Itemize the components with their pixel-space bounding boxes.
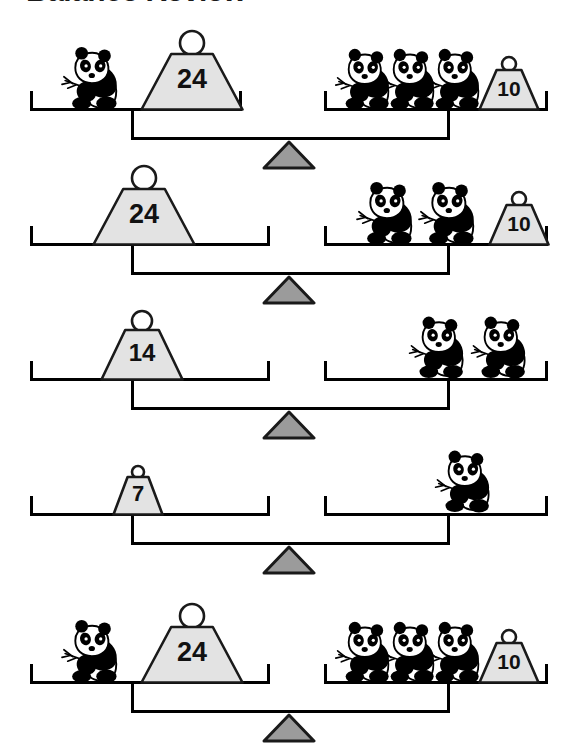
weight-value-label: 10 <box>478 651 540 672</box>
weight-block: 24 <box>140 602 244 684</box>
weight-block: 10 <box>488 190 550 246</box>
pan-edge-tick <box>545 664 548 684</box>
beam-arm-right <box>447 684 450 713</box>
pan-edge-tick <box>267 496 270 516</box>
weight-block: 7 <box>112 464 164 516</box>
pan-edge-tick <box>267 226 270 246</box>
weight-value-label: 7 <box>112 483 164 505</box>
beam-arm-left <box>131 111 134 140</box>
pan-edge-tick <box>324 91 327 111</box>
weight-value-label: 10 <box>478 78 540 99</box>
weight-value-label: 10 <box>488 213 550 234</box>
beam-arm-right <box>447 381 450 410</box>
pan-edge-tick <box>267 361 270 381</box>
pan-edge-tick <box>30 664 33 684</box>
beam-arm-left <box>131 516 134 545</box>
beam-arm-left <box>131 381 134 410</box>
beam-arm-right <box>447 246 450 275</box>
weight-block: 24 <box>140 29 244 111</box>
weight-block: 24 <box>92 164 196 246</box>
pan-edge-tick <box>324 664 327 684</box>
pan-edge-tick <box>545 361 548 381</box>
weight-block: 14 <box>100 309 184 381</box>
beam-arm-right <box>447 516 450 545</box>
pan-edge-tick <box>324 496 327 516</box>
pan-edge-tick <box>267 664 270 684</box>
pan-edge-tick <box>30 361 33 381</box>
page-title: Balance Review <box>26 0 246 8</box>
weight-value-label: 14 <box>100 341 184 365</box>
pan-edge-tick <box>545 496 548 516</box>
pan-edge-tick <box>30 496 33 516</box>
weight-block: 10 <box>478 55 540 111</box>
pan-edge-tick <box>30 91 33 111</box>
weight-value-label: 24 <box>92 201 196 228</box>
beam-arm-left <box>131 246 134 275</box>
weight-block: 10 <box>478 628 540 684</box>
pan-edge-tick <box>324 226 327 246</box>
pan-edge-tick <box>545 91 548 111</box>
weight-value-label: 24 <box>140 66 244 93</box>
weight-value-label: 24 <box>140 639 244 666</box>
pan-edge-tick <box>324 361 327 381</box>
pan-edge-tick <box>30 226 33 246</box>
beam-arm-left <box>131 684 134 713</box>
beam-arm-right <box>447 111 450 140</box>
